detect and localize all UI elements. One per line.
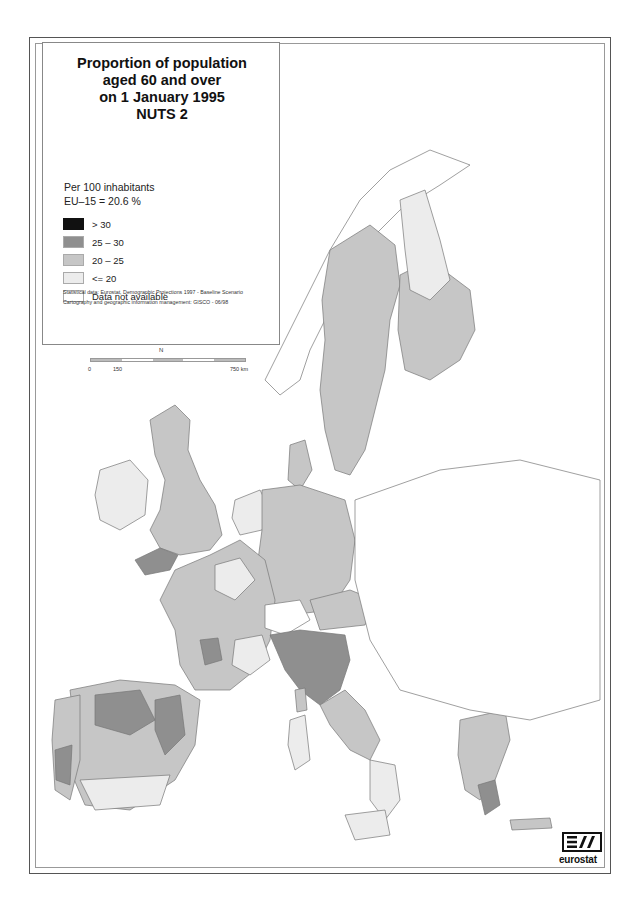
eu-average-line: EU–15 = 20.6 % [64, 194, 154, 208]
region-italy-central [320, 690, 380, 760]
legend-swatch [63, 218, 84, 230]
legend-label: 20 – 25 [92, 255, 124, 266]
legend-panel: Proportion of population aged 60 and ove… [42, 42, 280, 345]
region-great-britain [150, 405, 222, 555]
scale-label-end: 750 km [230, 366, 248, 372]
legend-label: 25 – 30 [92, 237, 124, 248]
north-arrow-icon: N [159, 347, 163, 353]
eurostat-logo-text: eurostat [559, 854, 597, 865]
legend-swatch [63, 272, 84, 284]
scale-bar [90, 358, 246, 362]
eurostat-mark-icon [565, 835, 599, 849]
legend-label: <= 20 [92, 273, 116, 284]
scale-label-start: 0 [88, 366, 91, 372]
unit-note: Per 100 inhabitants EU–15 = 20.6 % [64, 180, 154, 208]
title-line-4: NUTS 2 [43, 106, 281, 123]
legend-swatch [63, 254, 84, 266]
eurostat-logo-icon [562, 832, 602, 852]
region-crete [510, 818, 552, 830]
region-andalucia [80, 775, 170, 810]
source-note: Statistical data: Eurostat, Demographic … [63, 287, 243, 307]
title-line-3: on 1 January 1995 [43, 89, 281, 106]
source-line-data: Statistical data: Eurostat, Demographic … [63, 287, 243, 297]
region-alentejo [55, 745, 72, 785]
title-line-1: Proportion of population [43, 55, 281, 72]
unit-line: Per 100 inhabitants [64, 180, 154, 194]
title-line-2: aged 60 and over [43, 72, 281, 89]
region-denmark [288, 440, 312, 490]
region-corsica [295, 688, 307, 712]
legend-item-25-30: 25 – 30 [63, 233, 168, 251]
region-italy-north [270, 630, 350, 705]
scale-label-mid: 150 [113, 366, 122, 372]
legend-item-under-20: <= 20 [63, 269, 168, 287]
source-line-cartography: Cartography and geographic information m… [63, 297, 243, 307]
map-title: Proportion of population aged 60 and ove… [43, 55, 281, 123]
legend-item-over-30: > 30 [63, 215, 168, 233]
region-eastern-europe [355, 460, 600, 720]
legend-swatch [63, 236, 84, 248]
region-peloponnisos [478, 780, 500, 815]
region-ireland [95, 460, 148, 530]
region-sweden [320, 225, 400, 475]
region-sicily [345, 810, 390, 840]
legend-item-20-25: 20 – 25 [63, 251, 168, 269]
region-sardinia [288, 715, 310, 770]
legend-label: > 30 [92, 219, 111, 230]
